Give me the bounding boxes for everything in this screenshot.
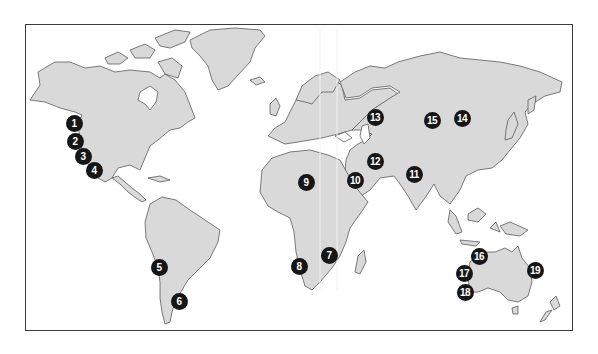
map-marker[interactable]: 14 [454, 110, 471, 127]
map-marker[interactable]: 15 [424, 112, 441, 129]
map-marker[interactable]: 6 [171, 293, 188, 310]
asia [340, 52, 562, 210]
map-marker[interactable]: 7 [321, 247, 338, 264]
map-marker[interactable]: 9 [298, 174, 315, 191]
map-marker[interactable]: 1 [66, 115, 83, 132]
map-marker[interactable]: 18 [457, 284, 474, 301]
north-america [30, 62, 195, 182]
map-marker[interactable]: 17 [456, 265, 473, 282]
map-marker[interactable]: 16 [471, 248, 488, 265]
map-marker[interactable]: 11 [406, 166, 423, 183]
map-marker[interactable]: 13 [367, 109, 384, 126]
map-marker[interactable]: 19 [527, 262, 544, 279]
map-marker[interactable]: 3 [75, 148, 92, 165]
map-marker[interactable]: 5 [151, 259, 168, 276]
map-marker[interactable]: 10 [347, 172, 364, 189]
new-zealand [550, 296, 560, 310]
map-marker[interactable]: 2 [67, 133, 84, 150]
map-marker[interactable]: 12 [367, 153, 384, 170]
map-marker[interactable]: 8 [291, 258, 308, 275]
map-marker[interactable]: 4 [86, 162, 103, 179]
